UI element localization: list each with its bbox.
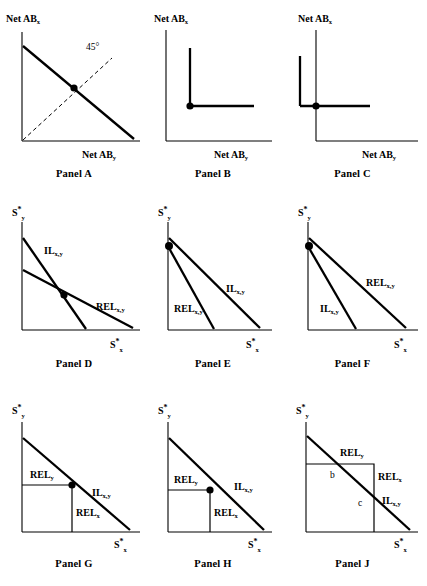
panel-g-yaxis-label: S*y bbox=[12, 403, 26, 419]
panel-f-plot: S*y RELx,y ILx,y S*x bbox=[278, 200, 427, 355]
panel-j-rel-x-label: RELx bbox=[378, 471, 403, 483]
panel-a-plot: Net ABx 45° Net ABy bbox=[0, 6, 148, 166]
panel-e-plot: S*y ILx,y RELx,y S*x bbox=[148, 200, 278, 355]
panel-f-yaxis-label: S*y bbox=[298, 205, 312, 221]
panel-b-plot: Net ABx Net ABy bbox=[148, 6, 278, 166]
panel-g-xaxis-label: S*x bbox=[114, 537, 128, 553]
panel-j-il-label: ILx,y bbox=[382, 495, 402, 507]
panel-d-caption: Panel D bbox=[0, 358, 148, 369]
panel-h-rel-x-label: RELx bbox=[214, 507, 239, 519]
panel-a-xaxis-label: Net ABy bbox=[82, 149, 117, 161]
panel-c-yaxis-label: Net ABx bbox=[298, 13, 333, 25]
panel-h-plot: S*y RELy RELx ILx,y S*x bbox=[148, 398, 278, 556]
panel-d-il-label: ILx,y bbox=[44, 245, 64, 257]
panel-c-xaxis-label: Net ABy bbox=[362, 149, 397, 161]
panel-f-il-label: ILx,y bbox=[320, 303, 340, 315]
panel-h: S*y RELy RELx ILx,y S*x Panel H bbox=[148, 398, 278, 586]
panel-d-rel-label: RELx,y bbox=[96, 301, 126, 313]
panel-b-xaxis-label: Net ABy bbox=[214, 149, 249, 161]
panel-f-rel-label: RELx,y bbox=[366, 277, 396, 289]
panel-b-caption: Panel B bbox=[148, 168, 278, 179]
panel-c-caption: Panel C bbox=[278, 168, 427, 179]
panel-g-corner-dot bbox=[68, 481, 75, 488]
panel-j-point-c-label: c bbox=[358, 498, 362, 508]
panel-j-rel-y-label: RELy bbox=[340, 447, 365, 459]
panel-d-yaxis-label: S*y bbox=[12, 205, 26, 221]
panel-h-rel-y-label: RELy bbox=[174, 474, 199, 486]
economics-panel-figure: Net ABx 45° Net ABy Panel A Net ABx bbox=[0, 0, 427, 586]
panel-g-caption: Panel G bbox=[0, 558, 148, 569]
panel-e-il-label: ILx,y bbox=[226, 283, 246, 295]
panel-e-yaxis-label: S*y bbox=[158, 205, 172, 221]
panel-a-yaxis-label: Net ABx bbox=[6, 13, 41, 25]
panel-h-yaxis-label: S*y bbox=[158, 403, 172, 419]
panel-j-allocation-rectangle bbox=[306, 464, 374, 532]
panel-a: Net ABx 45° Net ABy Panel A bbox=[0, 6, 148, 186]
panel-g-plot: S*y RELy RELx ILx,y S*x bbox=[0, 398, 148, 556]
panel-d-xaxis-label: S*x bbox=[110, 337, 124, 353]
panel-e-caption: Panel E bbox=[148, 358, 278, 369]
panel-e-endpoint-dot bbox=[165, 242, 173, 250]
panel-c-kink-dot bbox=[312, 102, 319, 109]
panel-h-caption: Panel H bbox=[148, 558, 278, 569]
panel-g-rel-y-label: RELy bbox=[30, 469, 55, 481]
panel-d-plot: S*y ILx,y RELx,y S*x bbox=[0, 200, 148, 355]
panel-a-45-degree-line bbox=[23, 58, 112, 140]
panel-e-il-curve bbox=[169, 238, 260, 328]
panel-a-intersection-dot bbox=[70, 84, 77, 91]
panel-h-allocation-rectangle bbox=[168, 490, 210, 532]
panel-f-xaxis-label: S*x bbox=[394, 337, 408, 353]
panel-g-allocation-rectangle bbox=[22, 485, 72, 532]
panel-h-il-label: ILx,y bbox=[234, 481, 254, 493]
panel-j-yaxis-label: S*y bbox=[296, 403, 310, 419]
panel-j-point-b-label: b bbox=[330, 470, 335, 480]
panel-d: S*y ILx,y RELx,y S*x Panel D bbox=[0, 200, 148, 380]
panel-b-kink-dot bbox=[186, 102, 193, 109]
panel-c: Net ABx Net ABy Panel C bbox=[278, 6, 427, 186]
panel-c-plot: Net ABx Net ABy bbox=[278, 6, 427, 166]
panel-f-endpoint-dot bbox=[305, 242, 313, 250]
panel-h-xaxis-label: S*x bbox=[248, 537, 262, 553]
panel-j-caption: Panel J bbox=[278, 558, 427, 569]
panel-j-xaxis-label: S*x bbox=[394, 537, 408, 553]
panel-e-xaxis-label: S*x bbox=[246, 337, 260, 353]
panel-f: S*y RELx,y ILx,y S*x Panel F bbox=[278, 200, 427, 380]
panel-b-yaxis-label: Net ABx bbox=[154, 13, 189, 25]
panel-j-plot: S*y RELy RELx ILx,y b c S*x bbox=[278, 398, 427, 556]
panel-a-angle-label: 45° bbox=[86, 42, 100, 52]
panel-g-rel-x-label: RELx bbox=[76, 507, 101, 519]
panel-h-corner-dot bbox=[206, 486, 213, 493]
panel-a-caption: Panel A bbox=[0, 168, 148, 179]
panel-e-rel-label: RELx,y bbox=[174, 303, 204, 315]
panel-b: Net ABx Net ABy Panel B bbox=[148, 6, 278, 186]
panel-g: S*y RELy RELx ILx,y S*x Panel G bbox=[0, 398, 148, 586]
panel-g-il-label: ILx,y bbox=[92, 487, 112, 499]
panel-e: S*y ILx,y RELx,y S*x Panel E bbox=[148, 200, 278, 380]
panel-j: S*y RELy RELx ILx,y b c S*x Panel J bbox=[278, 398, 427, 586]
panel-f-caption: Panel F bbox=[278, 358, 427, 369]
panel-d-intersection-dot bbox=[60, 291, 67, 298]
